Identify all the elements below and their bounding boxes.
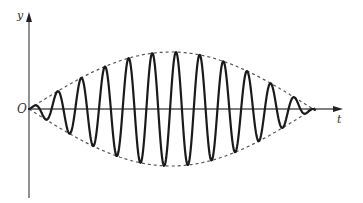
y-axis-label: y [16, 9, 24, 22]
y-axis-arrow-icon [26, 12, 32, 22]
lower-envelope-curve [29, 109, 315, 166]
origin-label: O [17, 102, 27, 116]
t-axis-label: t [337, 113, 342, 126]
beat-diagram: y t O [0, 0, 363, 203]
t-axis-arrow-icon [333, 106, 343, 112]
